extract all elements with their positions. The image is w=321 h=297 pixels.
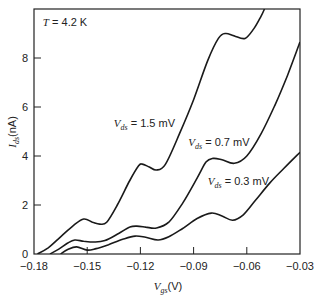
x-tick-label: −0.03 <box>286 260 314 272</box>
annotations: T = 4.2 KVds = 1.5 mVVds = 0.7 mVVds = 0… <box>43 16 270 190</box>
y-tick-label: 0 <box>22 248 28 260</box>
y-tick-label: 6 <box>22 101 28 113</box>
x-tick-label: −0.15 <box>73 260 101 272</box>
y-tick-label: 2 <box>22 199 28 211</box>
x-axis-label: Vgs(V) <box>154 280 183 295</box>
series-annotation: Vds = 0.7 mV <box>188 136 250 151</box>
series-line-0p3mv <box>61 152 300 254</box>
x-tick-label: −0.09 <box>180 260 208 272</box>
plot-area-border <box>34 9 300 254</box>
x-tick-label: −0.06 <box>233 260 261 272</box>
series-annotation: Vds = 0.3 mV <box>208 175 270 190</box>
x-tick-label: −0.12 <box>126 260 154 272</box>
y-tick-label: 4 <box>22 150 28 162</box>
y-axis: 02468 <box>22 52 41 260</box>
series-line-0p7mv <box>50 42 300 254</box>
chart: −0.18−0.15−0.12−0.09−0.06−0.03 02468 T =… <box>0 0 321 297</box>
y-tick-label: 8 <box>22 52 28 64</box>
series-line-1p5mv <box>38 9 265 254</box>
x-tick-label: −0.18 <box>20 260 48 272</box>
series-annotation: Vds = 1.5 mV <box>114 117 176 132</box>
y-axis-label: Ids(nA) <box>6 116 21 149</box>
temperature-annotation: T = 4.2 K <box>43 16 88 28</box>
data-series <box>38 9 301 254</box>
plot-frame <box>34 9 300 254</box>
